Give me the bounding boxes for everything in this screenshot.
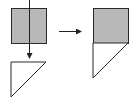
diagram-canvas (0, 0, 137, 102)
composite-triangle (93, 43, 128, 78)
left-triangle (11, 62, 46, 97)
composite-square (94, 9, 129, 44)
